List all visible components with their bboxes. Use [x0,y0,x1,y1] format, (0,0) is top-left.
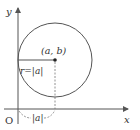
center-point [53,58,57,62]
circle-tangent-to-y-axis-diagram: y x O (a, b) r=|a| |a| [0,0,140,130]
y-axis-label: y [5,6,12,17]
x-axis-label: x [124,114,130,125]
center-label: (a, b) [41,45,66,56]
distance-label: |a| [32,113,43,124]
radius-label: r=|a| [20,66,43,77]
origin-label: O [5,115,13,126]
